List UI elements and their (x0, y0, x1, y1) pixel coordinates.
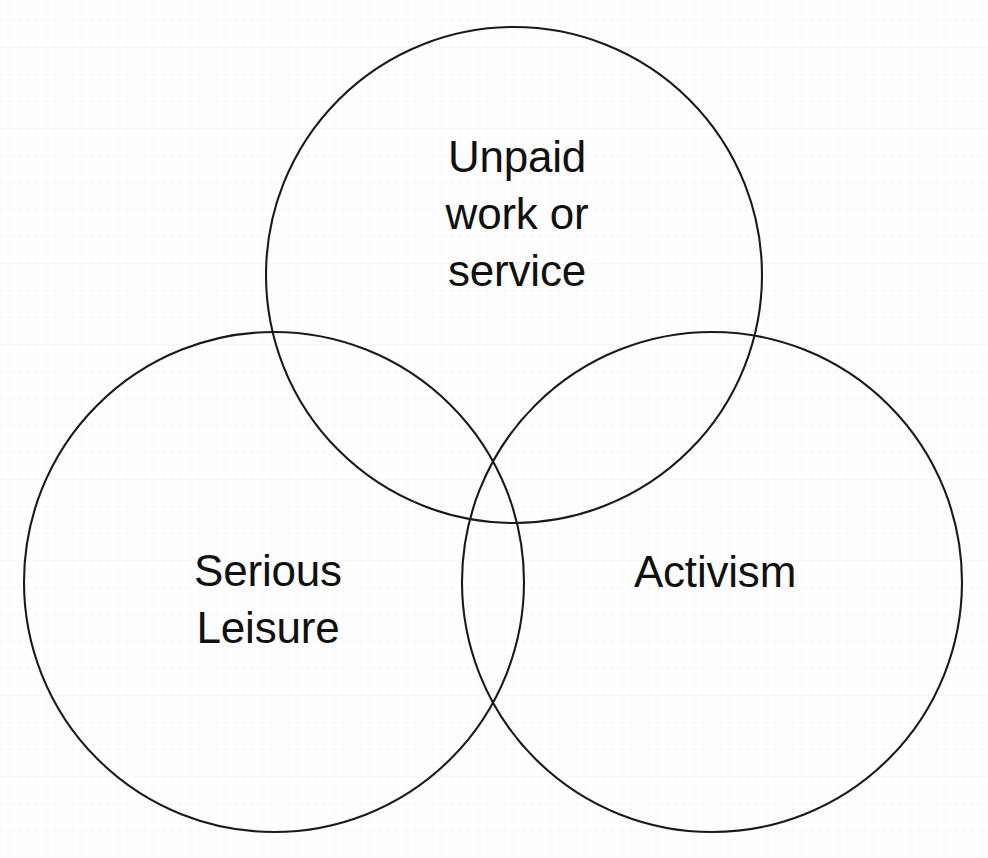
venn-label-serious-leisure: Serious Leisure (118, 542, 418, 656)
venn-label-activism: Activism (565, 543, 865, 600)
venn-diagram: Unpaid work or service Serious Leisure A… (0, 0, 988, 858)
venn-label-unpaid-work-or-service: Unpaid work or service (364, 128, 670, 299)
